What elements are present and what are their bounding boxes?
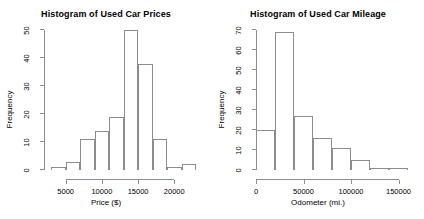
y-axis-tick-label: 30 [234, 100, 243, 122]
y-axis-tick [252, 149, 256, 150]
x-axis-tick-label: 50000 [284, 187, 324, 196]
x-axis-tick-label: 150000 [379, 187, 419, 196]
histogram-bar [256, 130, 275, 170]
chart-title-prices: Histogram of Used Car Prices [0, 9, 212, 19]
x-axis-tick [66, 180, 67, 184]
y-axis-tick [40, 57, 44, 58]
y-axis-tick [40, 29, 44, 30]
x-axis-tick [102, 180, 103, 184]
histogram-bar [275, 32, 294, 170]
y-axis-tick [252, 69, 256, 70]
y-axis-tick [252, 29, 256, 30]
y-axis-tick-label: 40 [234, 80, 243, 102]
x-axis-tick-label: 0 [236, 187, 276, 196]
y-axis-tick [40, 113, 44, 114]
y-axis-label-text: Frequency [6, 91, 15, 129]
bars-mileage [256, 30, 408, 170]
x-axis-line-mileage [256, 179, 399, 180]
y-axis-label-text: Frequency [218, 91, 227, 129]
bars-prices [44, 30, 196, 170]
y-axis-tick-label: 20 [234, 120, 243, 142]
y-axis-tick [252, 109, 256, 110]
x-axis-label-mileage: Odometer (mi.) [212, 198, 424, 207]
x-axis-line-prices [66, 179, 175, 180]
histogram-bar [370, 168, 389, 170]
plot-area-prices: 01020304050 5000100001500020000 [44, 30, 196, 170]
plot-area-mileage: 010203040506070 050000100000150000 [256, 30, 408, 170]
chart-panel-prices: Histogram of Used Car Prices Frequency 0… [0, 0, 212, 219]
histogram-figure: Histogram of Used Car Prices Frequency 0… [0, 0, 424, 219]
x-axis-tick [174, 180, 175, 184]
histogram-bar [167, 167, 181, 170]
x-axis-tick-label: 5000 [46, 187, 86, 196]
histogram-bar [95, 131, 109, 170]
histogram-bar [66, 162, 80, 170]
y-axis-tick-label: 60 [234, 40, 243, 62]
x-axis-tick-label: 10000 [82, 187, 122, 196]
y-axis-label-mileage: Frequency [216, 0, 228, 219]
y-axis-tick [252, 49, 256, 50]
y-axis-tick-label: 0 [234, 160, 243, 182]
y-axis-tick-label: 40 [22, 48, 31, 70]
histogram-bar [294, 116, 313, 170]
x-axis-tick [138, 180, 139, 184]
x-axis-tick [256, 180, 257, 184]
histogram-bar [80, 139, 94, 170]
histogram-bar [313, 138, 332, 170]
y-axis-line-mileage [256, 30, 257, 170]
y-axis-tick [40, 85, 44, 86]
x-axis-label-prices: Price ($) [0, 198, 212, 207]
histogram-bar [182, 164, 196, 170]
y-axis-tick-label: 50 [22, 20, 31, 42]
y-axis-tick-label: 30 [22, 76, 31, 98]
y-axis-tick-label: 50 [234, 60, 243, 82]
y-axis-tick-label: 10 [234, 140, 243, 162]
y-axis-label-prices: Frequency [4, 0, 16, 219]
x-axis-tick-label: 20000 [154, 187, 194, 196]
y-axis-tick [40, 169, 44, 170]
x-axis-tick [399, 180, 400, 184]
chart-title-mileage: Histogram of Used Car Mileage [212, 9, 424, 19]
y-axis-tick [40, 141, 44, 142]
histogram-bar [138, 64, 152, 170]
histogram-bar [109, 117, 123, 170]
histogram-bar [351, 160, 370, 170]
y-axis-tick-label: 70 [234, 20, 243, 42]
y-axis-tick [252, 129, 256, 130]
histogram-bar [51, 167, 65, 170]
y-axis-tick-label: 0 [22, 160, 31, 182]
y-axis-tick [252, 169, 256, 170]
y-axis-line-prices [44, 30, 45, 170]
histogram-bar [153, 139, 167, 170]
x-axis-tick-label: 100000 [331, 187, 371, 196]
histogram-bar [332, 148, 351, 170]
y-axis-tick-label: 10 [22, 132, 31, 154]
y-axis-tick [252, 89, 256, 90]
y-axis-tick-label: 20 [22, 104, 31, 126]
histogram-bar [124, 30, 138, 170]
x-axis-tick [351, 180, 352, 184]
x-axis-tick [304, 180, 305, 184]
x-axis-tick-label: 15000 [118, 187, 158, 196]
chart-panel-mileage: Histogram of Used Car Mileage Frequency … [212, 0, 424, 219]
histogram-bar [389, 168, 408, 170]
